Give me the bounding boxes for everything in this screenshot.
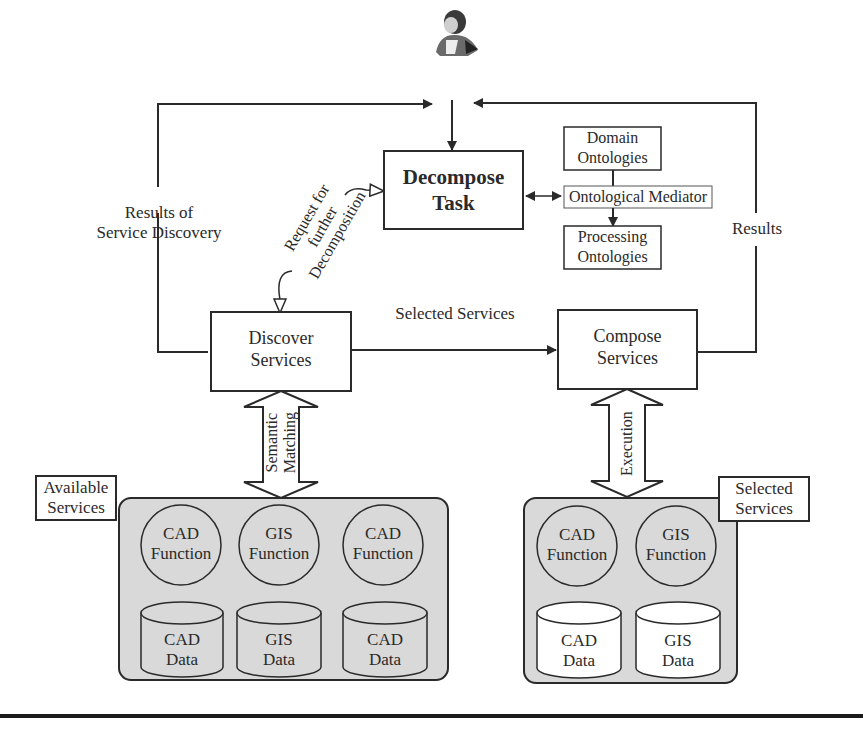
data-label: GIS Data: [636, 631, 720, 670]
data-label: CAD Data: [141, 630, 223, 669]
function-label: CAD Function: [537, 525, 617, 564]
data-label: GIS Data: [237, 630, 321, 669]
function-label: GIS Function: [636, 525, 716, 564]
domain-ontologies-label: Domain Ontologies: [564, 128, 661, 167]
processing-ontologies-label: Processing Ontologies: [564, 227, 661, 266]
ontological-mediator-label: Ontological Mediator: [564, 187, 712, 206]
execution-label: Execution: [617, 404, 636, 484]
data-label: CAD Data: [343, 630, 427, 669]
bottom-rule: [0, 714, 863, 718]
available-services-title: Available Services: [36, 478, 116, 517]
results-label: Results: [722, 219, 792, 239]
compose-services-label: Compose Services: [558, 326, 697, 369]
discover-services-label: Discover Services: [211, 328, 351, 371]
diagram-canvas: [0, 0, 863, 734]
function-label: GIS Function: [239, 524, 319, 563]
user-person-icon: [436, 10, 478, 56]
results-of-discovery-label: Results of Service Discovery: [90, 203, 228, 244]
selected-services-title: Selected Services: [719, 479, 809, 518]
data-label: CAD Data: [537, 631, 621, 670]
function-label: CAD Function: [343, 524, 423, 563]
function-label: CAD Function: [141, 524, 221, 563]
semantic-matching-label: Semantic Matching: [263, 398, 298, 488]
selected-services-edge-label: Selected Services: [380, 304, 530, 324]
decompose-task-label: Decompose Task: [384, 164, 523, 217]
